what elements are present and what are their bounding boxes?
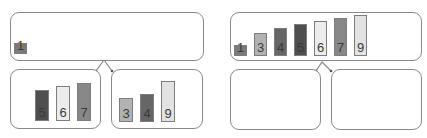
bar-4: 4	[140, 94, 154, 122]
bar-value-label: 7	[80, 106, 87, 120]
bar-value-label: 1	[237, 41, 244, 55]
bar-5: 5	[294, 24, 307, 56]
bar-value-label: 4	[143, 107, 150, 121]
bar-3: 3	[254, 33, 267, 56]
after-left-child-box	[230, 69, 321, 130]
bar-value-label: 5	[297, 41, 304, 55]
bar-5: 5	[35, 90, 49, 121]
bar-7: 7	[334, 18, 347, 56]
bar-value-label: 1	[17, 39, 24, 53]
bar-1: 1	[14, 43, 27, 54]
bar-9: 9	[161, 81, 175, 122]
bar-value-label: 6	[317, 41, 324, 55]
bar-6: 6	[314, 21, 327, 56]
bar-7: 7	[77, 83, 91, 121]
bar-value-label: 5	[38, 106, 45, 120]
bar-value-label: 3	[257, 41, 264, 55]
bar-value-label: 7	[337, 41, 344, 55]
before-top-box	[10, 12, 204, 61]
after-right-child-box	[331, 69, 422, 130]
bar-3: 3	[119, 98, 133, 122]
bar-value-label: 9	[164, 107, 171, 121]
bar-value-label: 6	[59, 106, 66, 120]
bar-value-label: 9	[357, 41, 364, 55]
bar-value-label: 4	[277, 41, 284, 55]
bar-value-label: 3	[122, 107, 129, 121]
bar-1: 1	[234, 45, 247, 56]
bar-9: 9	[354, 15, 367, 56]
bar-6: 6	[56, 86, 70, 121]
bar-4: 4	[274, 28, 287, 56]
